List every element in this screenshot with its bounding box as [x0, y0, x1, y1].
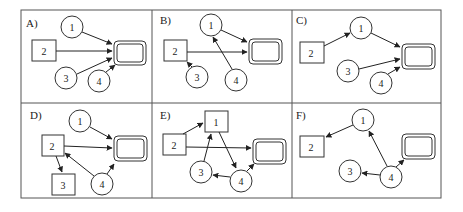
terminal-node: [249, 39, 282, 64]
svg-text:1: 1: [70, 22, 75, 33]
diagram-grid: A) 1 2 3 4 B) 1 2 3 4: [0, 0, 463, 212]
svg-text:2: 2: [173, 46, 178, 57]
svg-text:C): C): [296, 14, 307, 27]
panel-b: B) 1 2 3 4: [160, 14, 282, 91]
svg-text:E): E): [160, 109, 171, 122]
svg-text:4: 4: [379, 78, 384, 89]
panel-e: E) 1 2 3 4: [160, 109, 286, 192]
svg-text:1: 1: [209, 20, 214, 31]
svg-text:1: 1: [359, 23, 364, 34]
svg-text:2: 2: [50, 141, 55, 152]
svg-text:3: 3: [61, 180, 66, 191]
terminal-node: [402, 44, 435, 69]
terminal-node: [253, 139, 286, 164]
svg-text:B): B): [160, 14, 171, 27]
terminal-node: [114, 136, 147, 161]
svg-text:4: 4: [100, 179, 105, 190]
panel-a: A) 1 2 3 4: [26, 16, 146, 92]
svg-text:1: 1: [78, 116, 83, 127]
svg-text:4: 4: [389, 172, 394, 183]
svg-text:F): F): [296, 109, 306, 122]
svg-text:4: 4: [97, 76, 102, 87]
svg-text:2: 2: [309, 48, 314, 59]
svg-text:2: 2: [309, 142, 314, 153]
svg-text:2: 2: [42, 46, 47, 57]
svg-text:2: 2: [172, 140, 177, 151]
panel-label: A): [26, 17, 38, 30]
svg-text:3: 3: [346, 66, 351, 77]
svg-text:3: 3: [64, 73, 69, 84]
svg-text:D): D): [30, 109, 42, 122]
panel-d: D) 1 2 3 4: [30, 109, 147, 195]
panel-f: F) 1 2 3 4: [296, 109, 435, 188]
svg-text:4: 4: [234, 75, 239, 86]
svg-text:1: 1: [214, 117, 219, 128]
svg-text:3: 3: [195, 72, 200, 83]
svg-text:3: 3: [199, 167, 204, 178]
terminal-node: [402, 134, 435, 159]
svg-text:1: 1: [361, 115, 366, 126]
svg-text:4: 4: [239, 176, 244, 187]
svg-text:3: 3: [348, 166, 353, 177]
panel-c: C) 1 2 3 4: [296, 14, 435, 94]
